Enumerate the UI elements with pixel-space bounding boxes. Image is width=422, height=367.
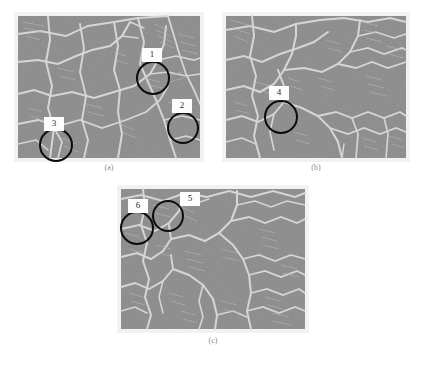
annotation-label-6: 6 xyxy=(128,199,148,213)
annotation-circle-4 xyxy=(264,100,298,134)
annotation-circle-6 xyxy=(120,211,154,245)
annotation-circle-2 xyxy=(167,112,199,144)
annotation-label-2: 2 xyxy=(172,99,192,113)
micrograph-image-b xyxy=(222,12,410,162)
annotation-label-3: 3 xyxy=(44,117,64,131)
annotation-circle-1 xyxy=(136,61,170,95)
panel-c-caption: (c) xyxy=(117,336,309,346)
panel-a-caption: (a) xyxy=(14,163,204,173)
annotation-label-5: 5 xyxy=(180,192,200,206)
annotation-label-1: 1 xyxy=(142,48,162,62)
figure-root: (a) xyxy=(0,0,422,367)
annotation-circle-3 xyxy=(39,128,73,162)
micrograph-svg-b xyxy=(222,12,410,162)
panel-b xyxy=(222,12,410,162)
panel-b-caption: (b) xyxy=(222,163,410,173)
annotation-label-4: 4 xyxy=(269,86,289,100)
